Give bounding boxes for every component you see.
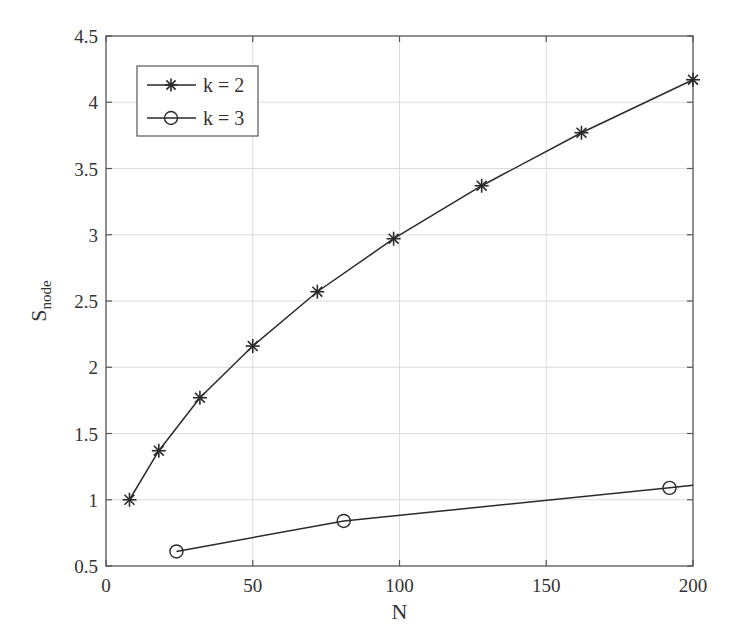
asterisk-marker-icon [686, 73, 700, 87]
data-series [122, 73, 700, 558]
x-tick-label: 50 [243, 575, 262, 596]
asterisk-marker-icon [310, 285, 324, 299]
x-axis-label: N [392, 599, 408, 624]
series-k3 [170, 481, 693, 558]
y-tick-label: 1.5 [74, 424, 98, 445]
y-tick-label: 4.5 [74, 26, 98, 47]
y-axis-label: Snode [26, 280, 54, 322]
x-tick-label: 200 [679, 575, 708, 596]
series-line [129, 80, 693, 500]
y-tick-label: 1 [89, 490, 99, 511]
y-tick-label: 0.5 [74, 556, 98, 577]
legend: k = 2k = 3 [137, 66, 258, 136]
y-tick-label: 2.5 [74, 291, 98, 312]
asterisk-marker-icon [475, 179, 489, 193]
x-tick-label: 100 [385, 575, 414, 596]
y-tick-label: 3.5 [74, 159, 98, 180]
asterisk-marker-icon [246, 339, 260, 353]
asterisk-marker-icon [152, 444, 166, 458]
asterisk-marker-icon [574, 126, 588, 140]
legend-label: k = 3 [203, 107, 244, 129]
y-tick-label: 2 [89, 357, 99, 378]
x-tick-label: 0 [101, 575, 111, 596]
asterisk-marker-icon [193, 391, 207, 405]
asterisk-marker-icon [122, 493, 136, 507]
asterisk-marker-icon [165, 79, 178, 92]
series-line [176, 485, 693, 551]
y-tick-label: 3 [89, 225, 99, 246]
series-k2 [122, 73, 700, 507]
asterisk-marker-icon [387, 232, 401, 246]
y-tick-label: 4 [89, 92, 99, 113]
line-chart: 0501001502000.511.522.533.544.5 k = 2k =… [0, 0, 743, 643]
x-tick-label: 150 [532, 575, 561, 596]
legend-label: k = 2 [203, 74, 244, 96]
